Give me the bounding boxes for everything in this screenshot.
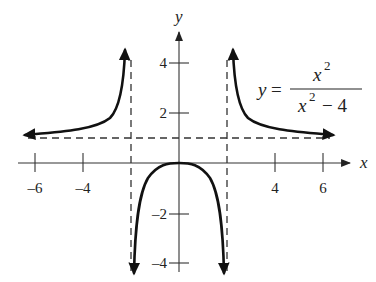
left-branch-curve [25, 50, 125, 135]
y-tick-label: –4 [151, 255, 168, 271]
equation-equals: = [271, 79, 282, 100]
equation-lhs: y [256, 79, 267, 100]
x-axis-label: x [359, 153, 368, 172]
axes [18, 32, 350, 272]
x-tick-label: 6 [319, 180, 327, 196]
equation-label: y = x 2 x 2 − 4 [256, 58, 362, 116]
equation-denominator-rest: − 4 [322, 95, 347, 116]
equation-denominator-var: x [297, 95, 307, 116]
rational-function-graph: –6 –4 4 6 4 2 –2 –4 x y y = x 2 x 2 − 4 [0, 0, 376, 282]
equation-numerator-exponent: 2 [324, 58, 331, 73]
x-tick-label: 4 [271, 180, 279, 196]
x-tick-label: –4 [75, 180, 92, 196]
right-branch-curve [233, 50, 333, 135]
y-axis-label: y [173, 7, 183, 26]
y-tick-label: –2 [151, 206, 167, 222]
y-tick-label: 2 [160, 105, 168, 121]
x-tick-label: –6 [27, 180, 44, 196]
equation-numerator: x [312, 64, 322, 85]
y-tick-label: 4 [160, 55, 168, 71]
equation-denominator-exponent: 2 [309, 89, 316, 104]
